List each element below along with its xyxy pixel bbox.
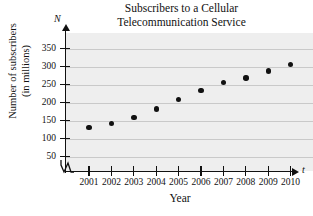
axis-break-icon <box>60 160 76 174</box>
x-axis-tick-label: 2010 <box>274 177 308 187</box>
x-axis-variable-label: t <box>302 164 305 175</box>
x-axis-tick <box>223 166 224 176</box>
y-axis-title-line-1: Number of subscribers <box>6 0 19 146</box>
chart-figure: Subscribers to a Cellular Telecommunicat… <box>0 0 313 216</box>
x-axis-tick <box>156 166 157 176</box>
data-point <box>154 106 159 111</box>
y-axis-tick-label: 50 <box>26 151 56 161</box>
chart-title-line-1: Subscribers to a Cellular <box>60 1 303 15</box>
x-axis-tick <box>290 166 291 176</box>
data-point <box>266 68 271 73</box>
data-point <box>198 88 203 93</box>
y-axis-tick <box>60 102 70 103</box>
x-axis-tick <box>178 166 179 176</box>
gridline <box>65 157 313 158</box>
data-point <box>243 75 248 80</box>
gridline <box>65 139 313 140</box>
y-axis-tick <box>60 120 70 121</box>
chart-title-line-2: Telecommunication Service <box>60 15 303 29</box>
x-axis-tick <box>245 166 246 176</box>
y-axis-title-line-2: (in millions) <box>19 0 32 146</box>
gridline <box>65 103 313 104</box>
gridline <box>65 85 313 86</box>
x-axis-tick <box>268 166 269 176</box>
data-point <box>131 115 136 120</box>
x-axis-title: Year <box>100 192 260 204</box>
gridline <box>65 121 313 122</box>
x-axis-tick <box>200 166 201 176</box>
y-axis-tick <box>60 84 70 85</box>
y-axis-title: Number of subscribers (in millions) <box>6 0 32 146</box>
gridline <box>65 67 313 68</box>
y-axis-tick <box>60 48 70 49</box>
y-axis-tick <box>60 66 70 67</box>
plot-area <box>65 33 313 171</box>
y-axis-arrow-icon <box>62 24 70 31</box>
y-axis-tick <box>60 156 70 157</box>
x-axis-tick <box>111 166 112 176</box>
gridline <box>65 49 313 50</box>
chart-title: Subscribers to a Cellular Telecommunicat… <box>60 1 303 29</box>
x-axis-tick <box>133 166 134 176</box>
y-axis-tick <box>60 138 70 139</box>
x-axis-arrow-icon <box>292 168 299 176</box>
y-axis-variable-label: N <box>54 13 61 24</box>
x-axis-tick <box>88 166 89 176</box>
